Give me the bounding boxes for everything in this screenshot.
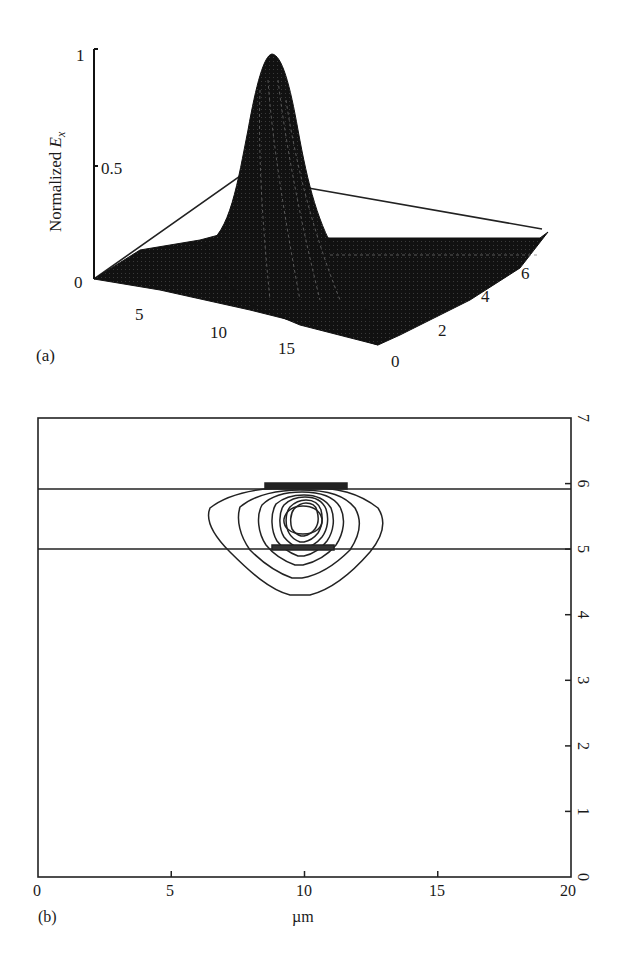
x-axis-label: µm: [292, 908, 314, 926]
z-tick-label: 0.5: [101, 159, 122, 178]
contour-plot-b: 0 5 10 15 20 µm 0 1 2 3 4 5 6 7 (b): [33, 414, 592, 926]
x-tick-label: 10: [296, 882, 312, 899]
figure-canvas: 1 0.5 0 Normalized Ex 5 10 15 0 2 4 6 (a…: [0, 0, 626, 970]
x-tick-label: 5: [135, 305, 144, 324]
z-tick-label: 1: [76, 46, 85, 65]
surface-plot-a: 1 0.5 0 Normalized Ex 5 10 15 0 2 4 6 (a…: [36, 46, 548, 371]
y-tick-label: 6: [521, 264, 530, 283]
y-tick-label: 0: [575, 873, 592, 881]
x-tick-label: 10: [210, 323, 227, 342]
panel-label-b: (b): [38, 908, 57, 926]
y-tick-label: 1: [575, 807, 592, 815]
z-tick-label: 0: [74, 273, 83, 292]
y-tick-label: 4: [575, 611, 592, 619]
y-tick-label: 0: [391, 352, 400, 371]
y-tick-label: 6: [575, 480, 592, 488]
x-ticks: [171, 871, 438, 877]
y-tick-labels: 0 1 2 3 4 5 6 7: [575, 414, 592, 881]
y-tick-label: 7: [575, 414, 592, 422]
y-tick-label: 3: [575, 676, 592, 684]
x-tick-label: 15: [278, 339, 295, 358]
x-tick-label: 20: [560, 882, 576, 899]
y-ticks: [565, 484, 571, 812]
y-tick-label: 2: [438, 321, 447, 340]
panel-label-a: (a): [36, 346, 55, 365]
z-axis-label: Normalized Ex: [46, 131, 68, 232]
y-tick-label: 5: [575, 545, 592, 553]
contour-lines: [209, 483, 383, 595]
x-tick-label: 5: [166, 882, 174, 899]
y-tick-label: 2: [575, 742, 592, 750]
x-tick-label: 15: [429, 882, 445, 899]
y-tick-label: 4: [481, 287, 490, 306]
x-tick-label: 0: [33, 882, 41, 899]
